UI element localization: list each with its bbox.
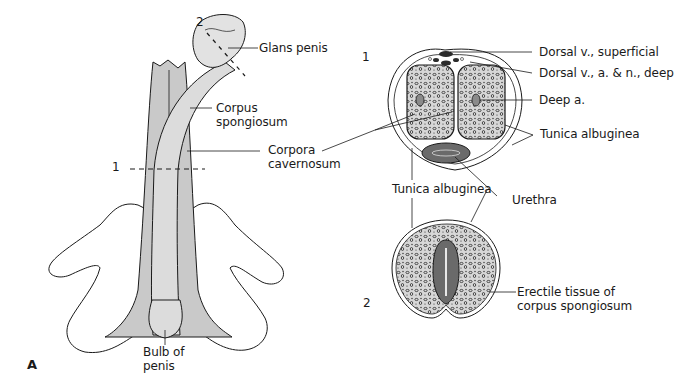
- left-corpus-cavernosum: [407, 65, 454, 139]
- bulb-of-penis: [149, 300, 182, 338]
- urethra-section-1: [422, 143, 470, 163]
- cross-section-1-number: 1: [362, 51, 370, 64]
- anatomy-figure: 2 1 Glans penis Corpus spongiosum Corpor…: [0, 0, 691, 385]
- label-dorsal-deep: Dorsal v., a. & n., deep: [539, 67, 674, 80]
- label-bulb-of-penis-1: Bulb of: [143, 346, 184, 359]
- label-corpus-spongiosum-2: spongiosum: [216, 116, 288, 129]
- cross-section-1: [375, 49, 533, 228]
- label-tunica-albuginea-shared: Tunica albuginea: [392, 183, 491, 196]
- label-erectile-tissue-1: Erectile tissue of: [517, 286, 615, 299]
- section-marker-1: 1: [112, 161, 120, 174]
- section-marker-2: 2: [196, 16, 204, 29]
- right-corpus-cavernosum: [458, 65, 505, 139]
- label-erectile-tissue-2: corpus spongiosum: [517, 300, 632, 313]
- panel-letter: A: [27, 357, 37, 372]
- label-corpora-cavernosum-2: cavernosum: [268, 158, 341, 171]
- side-view: [49, 15, 375, 353]
- label-corpora-cavernosum-1: Corpora: [268, 144, 315, 157]
- label-bulb-of-penis-2: penis: [143, 360, 175, 373]
- label-corpus-spongiosum-1: Corpus: [216, 102, 258, 115]
- cross-section-2-number: 2: [363, 297, 371, 310]
- label-deep-artery: Deep a.: [539, 94, 585, 107]
- label-dorsal-superficial: Dorsal v., superficial: [539, 46, 659, 59]
- label-urethra: Urethra: [512, 194, 557, 207]
- label-glans-penis: Glans penis: [259, 42, 328, 55]
- label-tunica-albuginea-right: Tunica albuginea: [540, 128, 639, 141]
- cross-section-2: [392, 220, 516, 318]
